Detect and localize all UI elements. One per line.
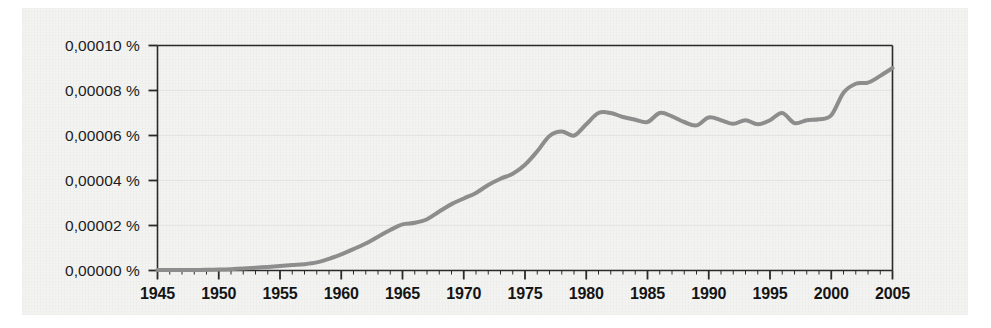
x-axis-label: 1975 xyxy=(508,285,543,303)
x-axis-label: 1970 xyxy=(446,285,481,303)
series-line-value xyxy=(158,68,893,270)
x-axis-label: 1950 xyxy=(201,285,236,303)
x-axis-label: 1960 xyxy=(324,285,359,303)
x-axis-label: 2005 xyxy=(875,285,910,303)
x-axis-label: 1965 xyxy=(385,285,420,303)
y-axis-label: 0,00006 % xyxy=(65,127,140,145)
x-axis-label: 1955 xyxy=(263,285,298,303)
y-axis-ticks xyxy=(149,46,158,271)
x-axis-label: 1985 xyxy=(630,285,665,303)
x-axis-label: 1990 xyxy=(691,285,726,303)
line-chart xyxy=(0,0,991,328)
x-axis-label: 1980 xyxy=(569,285,604,303)
y-axis-label: 0,00002 % xyxy=(65,217,140,235)
y-axis-label: 0,00010 % xyxy=(65,37,140,55)
data-series-line xyxy=(158,68,893,270)
plot-frame xyxy=(158,46,893,271)
y-axis-label: 0,00000 % xyxy=(65,262,140,280)
y-axis-label: 0,00004 % xyxy=(65,172,140,190)
chart-page: 0,00010 %0,00008 %0,00006 %0,00004 %0,00… xyxy=(0,0,991,328)
y-axis-label: 0,00008 % xyxy=(65,82,140,100)
x-axis-ticks xyxy=(158,271,893,280)
x-axis-label: 2000 xyxy=(814,285,849,303)
gridlines-group xyxy=(158,91,893,226)
x-axis-label: 1945 xyxy=(140,285,175,303)
x-axis-label: 1995 xyxy=(753,285,788,303)
